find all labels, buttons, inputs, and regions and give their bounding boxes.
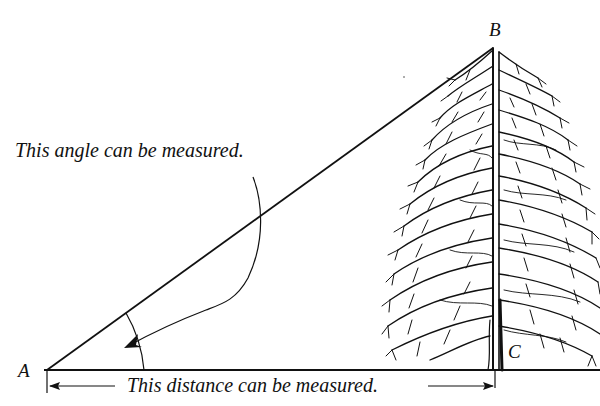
point-label-b: B	[489, 20, 501, 39]
angle-note: This angle can be measured.	[15, 140, 244, 160]
angle-pointer-arrow	[128, 177, 261, 346]
speck	[403, 76, 405, 78]
point-label-a: A	[18, 361, 30, 380]
point-label-c: C	[508, 342, 521, 361]
diagram-canvas: B A C This angle can be measured. This d…	[0, 0, 600, 406]
distance-note: This distance can be measured.	[127, 375, 378, 395]
conifer-tree-icon	[382, 48, 600, 370]
hypotenuse-line	[47, 48, 493, 370]
